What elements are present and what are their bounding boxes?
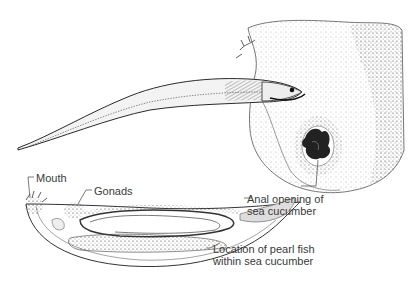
gonads-leader [78, 190, 92, 204]
label-location-line2: within sea cucumber [213, 255, 313, 267]
label-gonads: Gonads [94, 185, 133, 197]
illustration [0, 0, 408, 282]
label-location-line1: Location of pearl fish [213, 243, 315, 255]
label-mouth: Mouth [36, 172, 67, 184]
fish-eye [290, 88, 295, 93]
sea-cucumber-exterior [236, 20, 404, 192]
label-anal-opening-line2: sea cucumber [247, 205, 316, 217]
label-anal-opening-line1: Anal opening of [247, 193, 323, 205]
